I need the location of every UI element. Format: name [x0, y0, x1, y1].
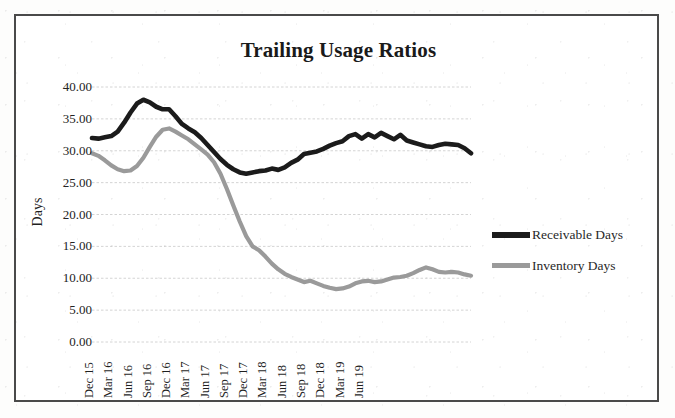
- legend-swatch-inventory-days: [492, 263, 530, 268]
- x-tick-label: Dec 15: [82, 362, 97, 398]
- x-tick-label: Mar 16: [101, 362, 116, 398]
- chart-page: Trailing Usage Ratios 0.005.0010.0015.00…: [0, 0, 675, 418]
- x-tick-label: Jun 17: [198, 365, 213, 398]
- legend-item-receivable-days: Receivable Days: [492, 219, 658, 250]
- x-tick-label: Mar 17: [178, 362, 193, 398]
- x-tick-label: Sep 18: [294, 364, 309, 398]
- x-tick-label: Jun 16: [121, 365, 136, 398]
- chart-frame: Trailing Usage Ratios 0.005.0010.0015.00…: [14, 14, 659, 402]
- x-tick-label: Jun 18: [275, 365, 290, 398]
- legend-item-inventory-days: Inventory Days: [492, 250, 658, 281]
- x-tick-label: Mar 18: [255, 362, 270, 398]
- chart-legend: Receivable Days Inventory Days: [492, 219, 658, 281]
- legend-swatch-receivable-days: [492, 232, 530, 238]
- x-tick-label: Dec 18: [313, 362, 328, 398]
- x-tick-label: Sep 16: [140, 364, 155, 398]
- legend-label-receivable-days: Receivable Days: [532, 227, 623, 243]
- x-axis-ticks: Dec 15Mar 16Jun 16Sep 16Dec 16Mar 17Jun …: [16, 16, 661, 404]
- x-tick-label: Jun 19: [352, 365, 367, 398]
- legend-label-inventory-days: Inventory Days: [532, 258, 616, 274]
- x-tick-label: Dec 17: [236, 362, 251, 398]
- x-tick-label: Sep 17: [217, 364, 232, 398]
- x-tick-label: Mar 19: [333, 362, 348, 398]
- x-tick-label: Dec 16: [159, 362, 174, 398]
